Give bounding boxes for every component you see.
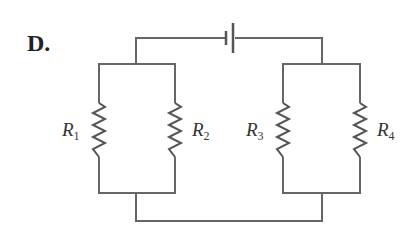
resistor-r4-icon bbox=[354, 103, 366, 157]
r2-label: R2 bbox=[191, 119, 210, 143]
r4-label: R4 bbox=[376, 119, 395, 143]
resistor-r1-icon bbox=[93, 103, 105, 157]
r1-label: R1 bbox=[61, 119, 80, 143]
r3-label: R3 bbox=[245, 119, 264, 143]
wires bbox=[99, 38, 360, 221]
circuit-diagram: R1 R2 R3 R4 bbox=[0, 0, 419, 236]
resistor-r2-icon bbox=[169, 103, 181, 157]
battery-icon bbox=[226, 23, 233, 53]
resistor-r3-icon bbox=[277, 103, 289, 157]
